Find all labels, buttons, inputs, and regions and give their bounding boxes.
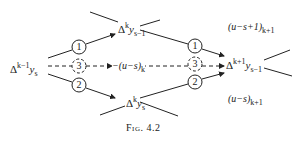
figure-caption: Fig. 4.2	[126, 122, 160, 133]
upper-coef-sub: k+1	[262, 26, 275, 35]
edge-r2-to-right	[202, 73, 224, 79]
mid-label-text: −(u−s)	[112, 60, 141, 71]
circle-2-left-label: 2	[72, 78, 86, 92]
circle-3-right-label: 3	[188, 57, 202, 71]
node-bottom: Δkys	[126, 96, 145, 112]
edge-top-to-r1	[140, 30, 188, 44]
node-right-sup: k+1	[233, 57, 246, 66]
edge-right-tail-down	[264, 68, 292, 76]
edge-bottom-to-r2	[140, 84, 188, 98]
circle-3-left-label: 3	[72, 59, 86, 73]
circle-2-right-label: 2	[188, 75, 202, 89]
mid-label: −(u−s)k	[112, 61, 145, 74]
mid-label-sub: k	[141, 65, 145, 74]
edge-c1-to-top	[86, 34, 115, 44]
lower-coef-sub: k+1	[250, 98, 263, 107]
lower-coefficient: (u−s)k+1	[228, 94, 263, 107]
edge-c2-to-bottom	[86, 88, 115, 98]
node-left-sup: k−1	[17, 61, 30, 70]
edge-left-to-c1	[48, 50, 72, 58]
node-left-sub: s	[34, 69, 37, 78]
node-bottom-sub: s	[142, 103, 145, 112]
upper-coef-text: (u−s+1)	[228, 21, 262, 32]
node-left: Δk−1ys	[10, 62, 38, 78]
circle-1-right-label: 1	[188, 39, 202, 53]
edge-bottom-tail-left	[100, 106, 125, 115]
lower-coef-text: (u−s)	[228, 93, 250, 104]
edge-top-tail-left	[90, 12, 118, 22]
node-top: Δkys−1	[118, 22, 146, 38]
upper-coefficient: (u−s+1)k+1	[228, 22, 275, 35]
node-right: Δk+1ys−1	[226, 58, 262, 74]
edge-right-tail-up	[264, 50, 290, 60]
node-right-sub: s−1	[250, 65, 262, 74]
edge-r1-to-right	[202, 49, 224, 56]
edge-bottom-tail-right	[140, 102, 178, 116]
node-top-sub: s−1	[134, 29, 146, 38]
edge-left-to-c2	[48, 74, 72, 82]
circle-1-left-label: 1	[72, 40, 86, 54]
